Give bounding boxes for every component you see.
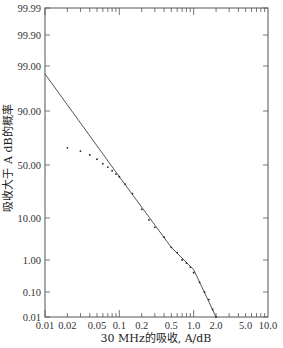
x-axis-title: 30 MHz的吸收, A/dB <box>101 331 212 345</box>
y-tick-label: 99.99 <box>17 3 41 14</box>
data-point <box>132 193 134 195</box>
data-point <box>118 176 120 178</box>
data-point <box>170 246 172 248</box>
absorption-probability-chart: 0.010.020.050.10.20.51.02.05.010.0 99.99… <box>0 0 283 348</box>
data-point <box>176 252 178 254</box>
data-point <box>80 150 82 152</box>
y-tick-label: 0.01 <box>23 312 41 323</box>
y-tick-label: 0.10 <box>23 287 41 298</box>
data-point <box>212 309 214 311</box>
data-point <box>141 208 143 210</box>
data-point <box>124 183 126 185</box>
data-point <box>199 281 201 283</box>
y-tick-label: 99.90 <box>17 30 41 41</box>
x-tick-label: 0.02 <box>58 320 76 331</box>
data-point <box>111 170 113 172</box>
y-axis-ticks <box>45 8 268 317</box>
data-point <box>189 266 191 268</box>
data-point <box>186 262 188 264</box>
data-point <box>66 147 68 149</box>
data-point <box>193 272 195 274</box>
x-axis-ticks <box>45 8 265 317</box>
data-point <box>154 226 156 228</box>
x-tick-label: 0.1 <box>113 320 126 331</box>
y-tick-label: 50.00 <box>17 160 41 171</box>
x-tick-label: 0.5 <box>165 320 178 331</box>
x-tick-label: 10.0 <box>259 320 277 331</box>
data-point <box>163 236 165 238</box>
y-axis-title: 吸收大于 A dB的概率 <box>1 104 15 211</box>
data-point <box>96 158 98 160</box>
data-point <box>102 163 104 165</box>
plot-frame <box>45 8 268 317</box>
x-tick-label: 2.0 <box>209 320 222 331</box>
data-point <box>204 291 206 293</box>
y-axis-tick-labels: 99.9999.9099.0090.0050.0010.001.000.100.… <box>17 3 41 323</box>
data-point <box>215 316 217 318</box>
y-tick-label: 99.00 <box>17 61 41 72</box>
y-tick-label: 10.00 <box>17 213 41 224</box>
x-tick-label: 0.05 <box>88 320 106 331</box>
y-tick-label: 1.00 <box>23 255 41 266</box>
x-tick-label: 0.2 <box>135 320 148 331</box>
x-tick-label: 1.0 <box>187 320 200 331</box>
data-point <box>148 219 150 221</box>
data-point <box>181 259 183 261</box>
x-axis-tick-labels: 0.010.020.050.10.20.51.02.05.010.0 <box>36 320 277 331</box>
y-tick-label: 90.00 <box>17 106 41 117</box>
data-point <box>208 299 210 301</box>
data-point <box>89 154 91 156</box>
data-point <box>107 166 109 168</box>
theory-line <box>45 74 216 317</box>
series-layer <box>45 74 217 318</box>
data-point <box>115 173 117 175</box>
x-tick-label: 5.0 <box>239 320 252 331</box>
